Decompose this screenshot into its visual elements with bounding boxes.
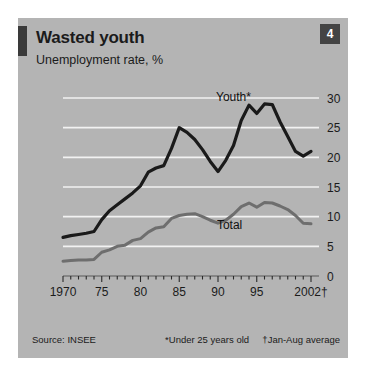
plot-area: 051015202530 197075808590952002† Youth*T… (36, 86, 348, 311)
page-title: Wasted youth (36, 28, 144, 48)
figure-number-badge: 4 (320, 24, 340, 44)
svg-text:25: 25 (327, 121, 341, 135)
svg-text:30: 30 (327, 92, 341, 106)
svg-text:0: 0 (327, 270, 334, 284)
source-note: Source: INSEE (32, 334, 96, 345)
y-tick-labels: 051015202530 (327, 92, 341, 284)
footnote-dagger: †Jan-Aug average (262, 334, 340, 345)
svg-text:2002†: 2002† (294, 285, 327, 299)
svg-text:90: 90 (211, 285, 225, 299)
chart-panel: Wasted youth Unemployment rate, % 4 0510… (18, 18, 348, 358)
svg-text:80: 80 (134, 285, 148, 299)
svg-text:10: 10 (327, 210, 341, 224)
x-tick-labels: 197075808590952002† (50, 285, 328, 299)
footnotes: *Under 25 years old †Jan-Aug average (165, 334, 340, 345)
svg-text:Youth*: Youth* (216, 90, 251, 104)
figure-root: Wasted youth Unemployment rate, % 4 0510… (0, 0, 365, 373)
svg-text:5: 5 (327, 240, 334, 254)
svg-text:20: 20 (327, 151, 341, 165)
svg-text:15: 15 (327, 181, 341, 195)
line-chart: 051015202530 197075808590952002† Youth*T… (36, 86, 348, 311)
x-axis (63, 276, 319, 282)
svg-text:Total: Total (217, 218, 242, 232)
svg-text:85: 85 (173, 285, 187, 299)
title-rule (18, 26, 27, 56)
footnote-star: *Under 25 years old (165, 334, 249, 345)
svg-text:95: 95 (250, 285, 264, 299)
chart-footer: Source: INSEE *Under 25 years old †Jan-A… (32, 334, 340, 350)
chart-subtitle: Unemployment rate, % (36, 53, 163, 67)
svg-text:1970: 1970 (50, 285, 77, 299)
svg-text:75: 75 (95, 285, 109, 299)
